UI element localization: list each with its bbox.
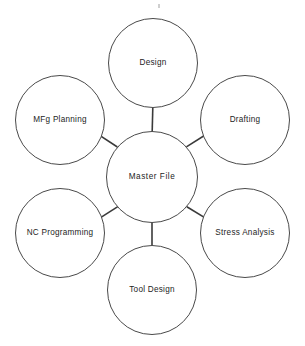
diagram-canvas: Design Drafting Stress Analysis Tool Des…: [0, 0, 305, 346]
node-stress-analysis[interactable]: Stress Analysis: [201, 189, 290, 278]
node-mfg-planning-label: MFg Planning: [33, 115, 87, 124]
node-tool-design-label: Tool Design: [129, 285, 175, 294]
node-mfg-planning[interactable]: MFg Planning: [16, 76, 105, 165]
node-design-label: Design: [140, 58, 167, 67]
node-nc-programming-label: NC Programming: [27, 228, 94, 237]
node-design[interactable]: Design: [109, 19, 198, 108]
node-stress-analysis-label: Stress Analysis: [215, 228, 274, 237]
node-master-file-label: Master File: [129, 172, 176, 181]
node-drafting-label: Drafting: [230, 115, 261, 124]
connector-hub-design: [152, 108, 153, 132]
node-master-file[interactable]: Master File: [107, 132, 198, 223]
node-drafting[interactable]: Drafting: [201, 76, 290, 165]
node-nc-programming[interactable]: NC Programming: [16, 189, 105, 278]
hub-and-spoke-diagram: Design Drafting Stress Analysis Tool Des…: [0, 0, 305, 346]
node-tool-design[interactable]: Tool Design: [108, 246, 197, 335]
